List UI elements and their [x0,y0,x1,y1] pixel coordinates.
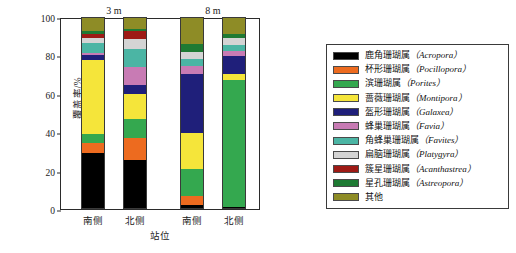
legend-swatch [333,52,359,60]
legend-item[interactable]: 扁脑珊瑚属（Platygyra） [333,148,504,161]
x-tick-label: 北侧 [125,213,145,227]
bar-segment [123,85,147,94]
legend-item[interactable]: 滨珊瑚属（Porites） [333,77,504,90]
bar-segment [81,43,105,53]
bar-segment [123,39,147,49]
y-tick-mark [57,172,61,173]
bar-segment [180,169,204,196]
legend-item[interactable]: 盔形珊瑚属（Galaxea） [333,106,504,119]
legend-swatch [333,179,359,187]
y-tick-mark [57,57,61,58]
bar-segment [222,38,246,45]
y-tick-mark [57,19,61,20]
plot-area: 覆盖率/% 020406080100 3 m8 m 南侧北侧南侧北侧 [60,18,260,210]
legend-item[interactable]: 星孔珊瑚属（Astreopora） [333,177,504,190]
bar-segment [180,44,204,52]
y-tick-mark [57,211,61,212]
bar-segment [81,134,105,143]
legend-swatch [333,66,359,74]
y-tick-mark [57,134,61,135]
bar-segment [123,17,147,29]
bar-segment [123,138,147,160]
legend-swatch [333,193,359,201]
legend-label: 簇星珊瑚属（Acanthastrea） [365,165,476,174]
legend-item[interactable]: 簇星珊瑚属（Acanthastrea） [333,163,504,176]
legend-label: 蜂巢珊瑚属（Favia） [365,122,449,131]
bar-segment [180,133,204,169]
legend-item[interactable]: 蔷薇珊瑚属（Montipora） [333,92,504,105]
bar-segment [222,74,246,81]
stacked-bar[interactable] [123,17,147,209]
stacked-bar[interactable] [222,17,246,209]
legend-swatch [333,80,359,88]
stacked-bar[interactable] [81,17,105,209]
legend-label: 其他 [365,193,383,202]
bar-segment [81,153,105,209]
bar-segment [180,66,204,74]
legend-label: 扁脑珊瑚属（Platygyra） [365,150,464,159]
legend-label: 鹿角珊瑚属（Acropora） [365,51,462,60]
legend-item[interactable]: 角蜂巢珊瑚属（Favites） [333,134,504,147]
legend-swatch [333,94,359,102]
bar-segment [123,119,147,138]
bar-segment [81,143,105,154]
bar-segment [180,52,204,60]
bar-segment [180,17,204,44]
y-tick-mark [57,95,61,96]
bar-segment [180,74,204,134]
legend-item[interactable]: 鹿角珊瑚属（Acropora） [333,49,504,62]
legend-label: 星孔珊瑚属（Astreopora） [365,179,468,188]
legend-label: 盔形珊瑚属（Galaxea） [365,108,459,117]
legend-swatch [333,137,359,145]
legend-item[interactable]: 杯形珊瑚属（Pocillopora） [333,63,504,76]
legend-label: 角蜂巢珊瑚属（Favites） [365,136,464,145]
figure-root: 覆盖率/% 020406080100 3 m8 m 南侧北侧南侧北侧 站位 鹿角… [0,0,516,253]
legend-item[interactable]: 其他 [333,191,504,204]
legend-swatch [333,165,359,173]
stacked-bar[interactable] [180,17,204,209]
x-tick-label: 南侧 [83,213,103,227]
x-tick-label: 南侧 [182,213,202,227]
bar-segment [123,67,147,85]
bar-segment [222,56,246,73]
bar-segment [81,60,105,134]
group-label-1: 3 m [106,5,121,16]
bar-segment [123,94,147,119]
legend-item[interactable]: 蜂巢珊瑚属（Favia） [333,120,504,133]
x-tick-label: 北侧 [224,213,244,227]
legend-label: 滨珊瑚属（Porites） [365,79,445,88]
bar-segment [222,17,246,34]
bar-segment [123,160,147,209]
legend-label: 杯形珊瑚属（Pocillopora） [365,65,471,74]
legend-swatch [333,151,359,159]
bar-segment [123,31,147,40]
legend: 鹿角珊瑚属（Acropora）杯形珊瑚属（Pocillopora）滨珊瑚属（Po… [326,44,509,209]
group-label-2: 8 m [205,5,220,16]
legend-swatch [333,122,359,130]
bar-segment [180,205,204,209]
bar-segment [81,17,105,31]
x-axis-title: 站位 [60,228,260,242]
bar-segment [222,207,246,209]
bar-segment [180,59,204,66]
bar-segment [123,49,147,67]
bar-segment [222,80,246,207]
legend-swatch [333,108,359,116]
bar-segment [180,196,204,206]
legend-label: 蔷薇珊瑚属（Montipora） [365,94,467,103]
